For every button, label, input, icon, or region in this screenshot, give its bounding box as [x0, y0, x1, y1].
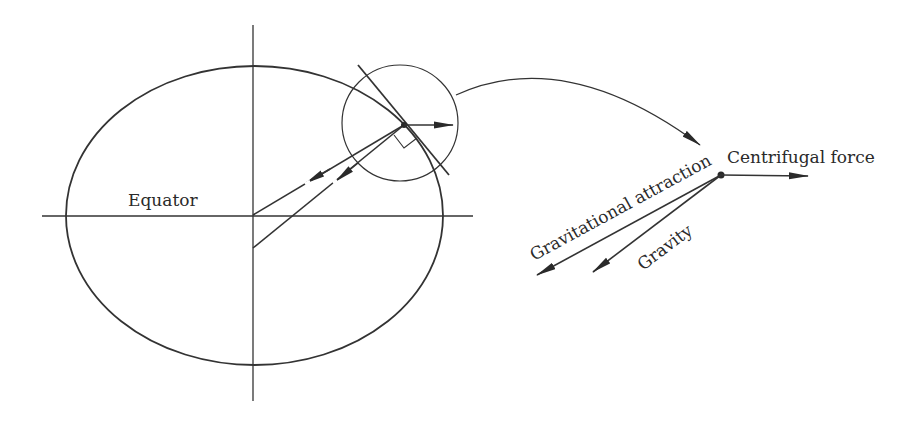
gravity-label: Gravity: [633, 220, 696, 274]
gravity-arrowhead: [336, 163, 358, 181]
tangent-line: [358, 65, 449, 175]
right-angle-marker: [394, 135, 417, 148]
centrifugal-force-label: Centrifugal force: [727, 147, 875, 167]
gravitational-attraction-label: Gravitational attraction: [526, 150, 714, 265]
gravity-line: [253, 125, 404, 248]
equator-label: Equator: [128, 190, 198, 210]
gravitational-attraction-vector: [537, 175, 721, 275]
curved-pointer-arrow: [456, 78, 700, 145]
earth-gravity-diagram: Equator Centrifugal force Gravitational …: [0, 0, 909, 421]
centrifugal-force-vector: [721, 175, 808, 176]
